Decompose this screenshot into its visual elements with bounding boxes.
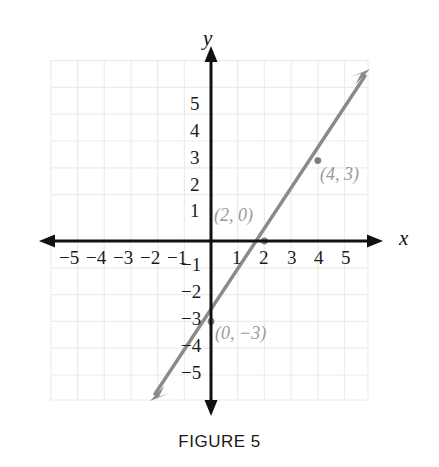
point-label-2-0: (2, 0) bbox=[214, 206, 253, 224]
y-tick-label-3: 3 bbox=[190, 148, 200, 167]
x-tick-label-5: 5 bbox=[341, 248, 351, 267]
y-axis-label: y bbox=[203, 28, 212, 49]
x-tick-label-1: 1 bbox=[232, 248, 242, 267]
x-axis-arrow-left bbox=[39, 235, 55, 248]
figure-caption: FIGURE 5 bbox=[0, 432, 439, 452]
x-tick-label-4: 4 bbox=[314, 248, 324, 267]
y-tick-label--1: −1 bbox=[181, 255, 201, 274]
x-tick-label--4: −4 bbox=[86, 248, 106, 267]
point-label-0-neg3: (0, −3) bbox=[215, 324, 266, 342]
y-tick-label-2: 2 bbox=[190, 175, 200, 194]
y-tick-label--2: −2 bbox=[181, 282, 201, 301]
y-tick-label--3: −3 bbox=[181, 309, 201, 328]
grid-lines bbox=[51, 60, 368, 400]
x-axis-label: x bbox=[399, 228, 408, 249]
x-tick-label--3: −3 bbox=[113, 248, 133, 267]
x-tick-label--2: −2 bbox=[140, 248, 160, 267]
x-tick-label--5: −5 bbox=[59, 248, 79, 267]
y-tick-label--4: −4 bbox=[181, 336, 201, 355]
coordinate-plane: −5 −4 −3 −2 −1 1 2 3 4 5 5 4 3 2 1 −1 −2… bbox=[0, 0, 439, 425]
point-marker-4-3 bbox=[314, 157, 321, 164]
axes bbox=[46, 54, 376, 408]
y-tick-label-4: 4 bbox=[190, 121, 200, 140]
x-tick-label-3: 3 bbox=[287, 248, 297, 267]
y-tick-label--5: −5 bbox=[181, 363, 201, 382]
x-axis-arrow-right bbox=[367, 235, 383, 248]
x-tick-label-2: 2 bbox=[259, 248, 269, 267]
y-axis-arrow-down bbox=[205, 400, 218, 416]
point-label-4-3: (4, 3) bbox=[320, 165, 359, 183]
y-tick-label-5: 5 bbox=[190, 94, 200, 113]
y-tick-label-1: 1 bbox=[190, 201, 200, 220]
figure-5-graph: −5 −4 −3 −2 −1 1 2 3 4 5 5 4 3 2 1 −1 −2… bbox=[0, 0, 439, 467]
